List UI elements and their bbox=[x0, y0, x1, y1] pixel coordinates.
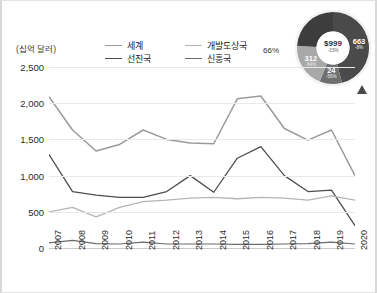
x-axis-tick-label: 2013 bbox=[194, 230, 204, 250]
x-axis-tick-label: 2012 bbox=[171, 230, 181, 250]
legend-swatch-2 bbox=[105, 58, 122, 60]
x-axis-tick-label: 2017 bbox=[288, 230, 298, 250]
legend-item-3[interactable]: 신흥국 bbox=[185, 52, 265, 65]
x-axis-tick-label: 2016 bbox=[265, 230, 275, 250]
x-axis-tick-label: 2010 bbox=[124, 230, 134, 250]
legend-row: 세계 개발도상국 bbox=[105, 39, 265, 52]
y-axis-tick-label: 1,000 bbox=[20, 170, 44, 181]
legend-swatch-1 bbox=[185, 45, 202, 47]
x-axis-labels: 2007200820092010201120122013201420152016… bbox=[49, 250, 355, 293]
x-axis-tick-label: 2008 bbox=[77, 230, 87, 250]
x-axis-tick-label: 2020 bbox=[359, 230, 369, 250]
legend-item-2[interactable]: 선진국 bbox=[105, 52, 185, 65]
y-axis-unit-label: (십억 달러) bbox=[16, 42, 56, 54]
legend-row: 선진국 신흥국 bbox=[105, 52, 265, 65]
x-axis-tick-label: 2011 bbox=[147, 231, 157, 250]
gridline bbox=[49, 139, 355, 140]
x-axis-tick-label: 2019 bbox=[335, 230, 345, 250]
y-axis-tick-label: 1,500 bbox=[20, 134, 44, 145]
legend-label-2: 선진국 bbox=[127, 52, 151, 65]
x-axis-tick-label: 2009 bbox=[100, 230, 110, 250]
legend-label-0: 세계 bbox=[127, 39, 143, 52]
series-line-0 bbox=[49, 96, 355, 176]
legend-swatch-3 bbox=[185, 58, 202, 60]
y-axis-tick-label: 500 bbox=[28, 206, 44, 217]
triangle-marker-icon bbox=[357, 85, 367, 94]
y-axis-tick-label: 0 bbox=[39, 243, 44, 254]
series-line-2 bbox=[49, 196, 355, 217]
legend-item-1[interactable]: 개발도상국 bbox=[185, 39, 265, 52]
donut-center-percent: -33% bbox=[315, 48, 351, 53]
x-axis-tick-label: 2007 bbox=[53, 230, 63, 250]
donut-outside-percent: 66% bbox=[263, 46, 279, 55]
donut-label-segment-312: 312-64% bbox=[297, 55, 325, 68]
legend-label-1: 개발도상국 bbox=[207, 39, 247, 52]
chart-legend: 세계 개발도상국 선진국 신흥국 bbox=[105, 39, 265, 65]
series-line-1 bbox=[49, 147, 355, 226]
y-axis-tick-label: 2,000 bbox=[20, 98, 44, 109]
legend-item-0[interactable]: 세계 bbox=[105, 39, 185, 52]
x-axis-tick-label: 2018 bbox=[312, 230, 322, 250]
legend-swatch-0 bbox=[105, 45, 122, 47]
gridline bbox=[49, 103, 355, 104]
gridline bbox=[49, 176, 355, 177]
x-axis-tick-label: 2015 bbox=[241, 230, 251, 250]
donut-center-value: $999 bbox=[315, 40, 351, 48]
x-axis-tick-label: 2014 bbox=[218, 230, 228, 250]
line-plot-area: 05001,0001,5002,0002,500 bbox=[49, 67, 355, 248]
legend-label-3: 신흥국 bbox=[207, 52, 231, 65]
plot-lines bbox=[49, 67, 355, 248]
gridline bbox=[49, 67, 355, 68]
y-axis-tick-label: 2,500 bbox=[20, 62, 44, 73]
gridline bbox=[49, 212, 355, 213]
donut-center-label: $999-33% bbox=[315, 40, 351, 53]
chart-container: (십억 달러) 세계 개발도상국 선진국 신흥국 66% 663-8%24-56… bbox=[0, 0, 377, 293]
